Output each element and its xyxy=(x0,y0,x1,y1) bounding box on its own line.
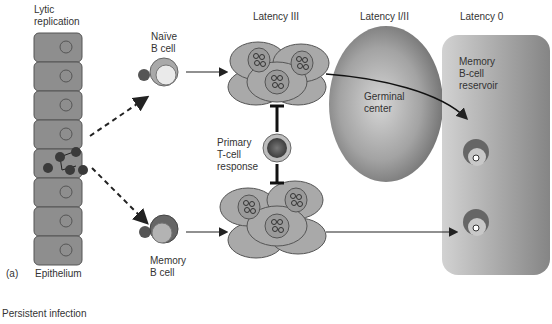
latency-iii-label: Latency III xyxy=(253,11,299,23)
lymphoblast-cluster-top xyxy=(228,42,329,105)
infect-memory-arrow xyxy=(92,168,146,222)
t-cell-label: PrimaryT-cellresponse xyxy=(217,137,258,173)
caption: Persistent infection xyxy=(2,308,87,320)
reservoir-label: MemoryB-cellreservoir xyxy=(459,56,498,92)
diagram-canvas xyxy=(0,0,552,324)
infect-naive-arrow xyxy=(90,98,146,136)
germinal-center-label: Germinalcenter xyxy=(364,91,405,115)
memory-label: MemoryB cell xyxy=(150,255,186,279)
epithelium-label: Epithelium xyxy=(35,268,82,280)
latency-0-label: Latency 0 xyxy=(460,11,503,23)
latency-i-ii-label: Latency I/II xyxy=(360,11,409,23)
panel-label: (a) xyxy=(6,268,18,280)
t-cell xyxy=(263,134,291,162)
naive-label: NaïveB cell xyxy=(151,31,177,55)
lytic-label: Lyticreplication xyxy=(34,4,80,28)
naive-b-cell xyxy=(138,58,178,86)
memory-b-cell xyxy=(139,215,178,243)
